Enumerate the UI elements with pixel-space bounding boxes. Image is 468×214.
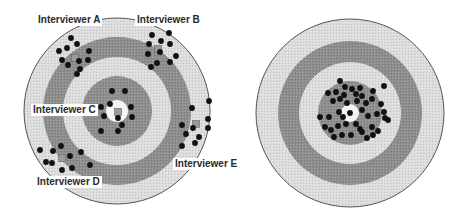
shot-dot bbox=[43, 159, 49, 165]
shot-dot bbox=[363, 100, 369, 106]
shot-dot bbox=[385, 117, 391, 123]
shot-dot bbox=[337, 78, 343, 84]
shot-dot bbox=[378, 101, 384, 107]
shot-dot bbox=[59, 167, 65, 173]
shot-dot bbox=[339, 132, 345, 138]
shot-dot bbox=[205, 125, 211, 131]
shot-dot bbox=[85, 57, 91, 63]
shot-dot bbox=[122, 88, 128, 94]
shot-dot bbox=[340, 114, 346, 120]
shot-dot bbox=[179, 143, 185, 149]
shot-dot bbox=[190, 125, 196, 131]
interviewer-label: Interviewer E bbox=[173, 158, 239, 170]
shot-dot bbox=[331, 134, 337, 140]
shot-dot bbox=[107, 101, 113, 107]
interviewer-label: Interviewer D bbox=[35, 176, 102, 188]
cluster-centroid-marker bbox=[59, 155, 66, 162]
shot-dot bbox=[330, 98, 336, 104]
interviewer-label: Interviewer B bbox=[135, 14, 202, 26]
shot-dot bbox=[158, 38, 164, 44]
interviewer-label: Interviewer C bbox=[31, 104, 98, 116]
shot-dot bbox=[183, 131, 189, 137]
shot-dot bbox=[128, 104, 134, 110]
shot-dot bbox=[64, 45, 70, 51]
shot-dot bbox=[349, 86, 355, 92]
shot-dot bbox=[365, 113, 371, 119]
shot-dot bbox=[167, 41, 173, 47]
shot-dot bbox=[166, 30, 172, 36]
shot-dot bbox=[74, 41, 80, 47]
shot-dot bbox=[98, 128, 104, 134]
shot-dot bbox=[369, 96, 375, 102]
shot-dot bbox=[189, 105, 195, 111]
shot-dot bbox=[173, 53, 179, 59]
shot-dot bbox=[179, 122, 185, 128]
shot-dot bbox=[115, 115, 121, 121]
shot-dot bbox=[359, 129, 365, 135]
shot-dot bbox=[354, 98, 360, 104]
shot-dot bbox=[196, 134, 202, 140]
shot-dot bbox=[98, 104, 104, 110]
shot-dot bbox=[37, 147, 43, 153]
shot-dot bbox=[333, 89, 339, 95]
shot-dot bbox=[157, 49, 163, 55]
cluster-centroid-marker bbox=[115, 109, 122, 116]
shot-dot bbox=[328, 127, 334, 133]
shot-dot bbox=[49, 160, 55, 166]
shot-dot bbox=[353, 91, 359, 97]
shot-dot bbox=[76, 58, 82, 64]
shot-dot bbox=[149, 32, 155, 38]
shot-dot bbox=[326, 114, 332, 120]
shot-dot bbox=[343, 121, 349, 127]
shot-dot bbox=[364, 135, 370, 141]
shot-dot bbox=[359, 107, 365, 113]
shot-dot bbox=[154, 60, 160, 66]
shot-dot bbox=[87, 162, 93, 168]
shot-dot bbox=[148, 64, 154, 70]
shot-dot bbox=[336, 109, 342, 115]
shot-dot bbox=[50, 148, 56, 154]
interviewer-label: Interviewer A bbox=[36, 14, 102, 26]
shot-dot bbox=[146, 41, 152, 47]
shot-dot bbox=[357, 85, 363, 91]
shot-dot bbox=[337, 96, 343, 102]
shot-dot bbox=[68, 35, 74, 41]
shot-dot bbox=[74, 71, 80, 77]
shot-dot bbox=[344, 100, 350, 106]
shot-dot bbox=[370, 88, 376, 94]
shot-dot bbox=[167, 59, 173, 65]
shot-dot bbox=[205, 116, 211, 122]
shot-dot bbox=[145, 51, 151, 57]
shot-dot bbox=[381, 109, 387, 115]
shot-dot bbox=[359, 93, 365, 99]
shot-dot bbox=[369, 124, 375, 130]
shot-dot bbox=[77, 66, 83, 72]
shot-dot bbox=[59, 57, 65, 63]
shot-dot bbox=[109, 88, 115, 94]
shot-dot bbox=[325, 90, 331, 96]
shot-dot bbox=[69, 165, 75, 171]
shot-dot bbox=[317, 114, 323, 120]
shot-dot bbox=[322, 124, 328, 130]
target-clustered bbox=[256, 19, 444, 207]
shot-dot bbox=[206, 98, 212, 104]
shot-dot bbox=[192, 140, 198, 146]
shot-dot bbox=[129, 114, 135, 120]
shot-dot bbox=[342, 84, 348, 90]
shot-dot bbox=[67, 153, 73, 159]
shot-dot bbox=[374, 111, 380, 117]
shot-dot bbox=[101, 113, 107, 119]
shot-dot bbox=[370, 132, 376, 138]
shot-dot bbox=[58, 143, 64, 149]
shot-dot bbox=[65, 62, 71, 68]
shot-dot bbox=[78, 149, 84, 155]
shot-dot bbox=[381, 83, 387, 89]
shot-dot bbox=[115, 128, 121, 134]
shot-dot bbox=[335, 123, 341, 129]
shot-dot bbox=[119, 122, 125, 128]
shot-dot bbox=[348, 132, 354, 138]
shot-dot bbox=[56, 48, 62, 54]
shot-dot bbox=[353, 121, 359, 127]
shot-dot bbox=[375, 128, 381, 134]
shot-dot bbox=[347, 110, 353, 116]
